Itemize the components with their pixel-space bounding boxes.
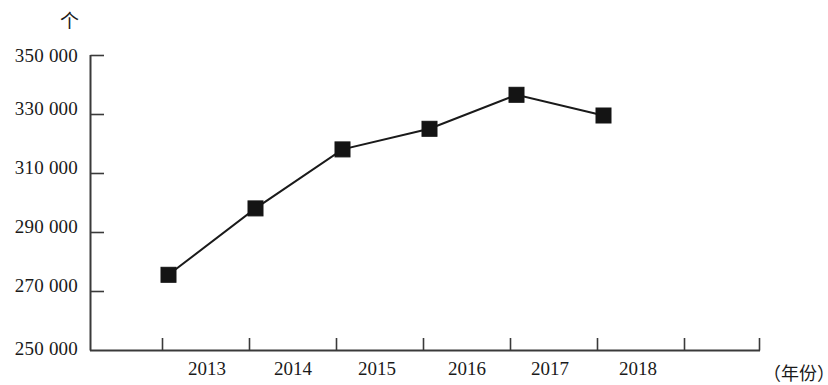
data-point-marker-2017	[509, 87, 524, 102]
y-axis-ticks	[91, 56, 105, 292]
data-line-series	[169, 95, 604, 275]
data-markers-group	[161, 87, 611, 282]
data-point-marker-2016	[422, 121, 437, 136]
data-point-marker-2013	[161, 267, 176, 282]
data-point-marker-2018	[596, 108, 611, 123]
data-point-marker-2015	[335, 142, 350, 157]
data-point-marker-2014	[248, 201, 263, 216]
x-axis-ticks	[163, 338, 760, 351]
